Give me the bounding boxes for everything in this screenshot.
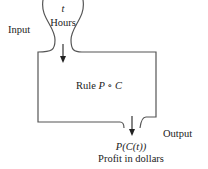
output-label: Output bbox=[163, 128, 192, 140]
input-variable-desc: Hours bbox=[50, 17, 76, 29]
output-arrow-icon bbox=[129, 116, 135, 136]
rule-prefix: Rule bbox=[76, 80, 96, 91]
rule-expression: P ∘ C bbox=[98, 80, 122, 91]
output-expression: P(C(t)) bbox=[116, 141, 146, 153]
output-expression-desc: Profit in dollars bbox=[98, 153, 164, 165]
input-arrow-icon bbox=[60, 44, 66, 63]
input-funnel-right bbox=[71, 0, 156, 128]
input-label: Input bbox=[8, 24, 30, 36]
rule-text: Rule P ∘ C bbox=[76, 80, 122, 92]
input-variable: t bbox=[62, 3, 65, 15]
